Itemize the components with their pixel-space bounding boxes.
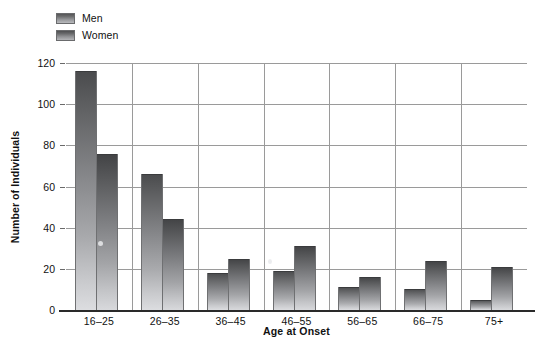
scan-speck xyxy=(98,241,103,246)
bar-women-16-25 xyxy=(96,154,118,310)
y-axis-tick-label: 80 xyxy=(43,139,55,151)
y-axis-tick-label: 20 xyxy=(43,263,55,275)
category-separator xyxy=(395,63,396,310)
bar-cap xyxy=(208,273,228,274)
x-axis-title: Age at Onset xyxy=(66,325,527,337)
y-axis-tick xyxy=(60,187,65,188)
scan-speck xyxy=(268,259,272,264)
y-axis-tick xyxy=(60,228,65,229)
y-axis-tick-label: 100 xyxy=(37,98,55,110)
legend-item-women: Women xyxy=(56,28,119,42)
bar-group xyxy=(470,63,522,310)
chart-legend: Men Women xyxy=(56,11,119,42)
legend-label-men: Men xyxy=(82,13,103,24)
bar-women-26-35 xyxy=(162,219,184,310)
legend-swatch-men-icon xyxy=(56,13,75,24)
bar-women-46-55 xyxy=(294,246,316,310)
bar-women-56-65 xyxy=(359,277,381,310)
bar-cap xyxy=(97,154,117,155)
x-axis-line xyxy=(59,310,535,312)
y-axis-tick-label: 40 xyxy=(43,222,55,234)
bar-men-46-55 xyxy=(273,271,295,310)
bar-group xyxy=(338,63,390,310)
bar-cap xyxy=(163,219,183,220)
bar-cap xyxy=(76,71,96,72)
bar-group xyxy=(75,63,127,310)
legend-label-women: Women xyxy=(82,30,119,41)
y-axis-tick xyxy=(60,63,65,64)
bar-cap xyxy=(274,271,294,272)
category-separator xyxy=(461,63,462,310)
y-axis-tick xyxy=(60,269,65,270)
bar-cap xyxy=(492,267,512,268)
bar-cap xyxy=(360,277,380,278)
bar-cap xyxy=(426,261,446,262)
bar-men-56-65 xyxy=(338,287,360,310)
y-axis-tick-label: 0 xyxy=(49,304,55,316)
bar-cap xyxy=(142,174,162,175)
y-axis-title: Number of Individuals xyxy=(8,63,22,310)
bar-men-16-25 xyxy=(75,71,97,310)
y-axis-tick-label: 60 xyxy=(43,181,55,193)
bar-cap xyxy=(339,287,359,288)
bar-cap xyxy=(471,300,491,301)
bar-men-66-75 xyxy=(404,289,426,310)
category-separator xyxy=(329,63,330,310)
y-axis-tick xyxy=(60,145,65,146)
legend-item-men: Men xyxy=(56,11,119,25)
y-axis-tick xyxy=(60,104,65,105)
category-separator xyxy=(132,63,133,310)
bar-group xyxy=(207,63,259,310)
plot-area: 120100806040200 16–2526–3536–4546–5556–6… xyxy=(66,63,527,310)
bar-cap xyxy=(229,259,249,260)
bar-women-66-75 xyxy=(425,261,447,310)
y-axis-tick-label: 120 xyxy=(37,57,55,69)
bar-group xyxy=(404,63,456,310)
category-separator xyxy=(264,63,265,310)
bar-women-75+ xyxy=(491,267,513,310)
bar-women-36-45 xyxy=(228,259,250,310)
bar-group xyxy=(141,63,193,310)
bar-men-75+ xyxy=(470,300,492,310)
legend-swatch-women-icon xyxy=(56,30,75,41)
y-axis-title-text: Number of Individuals xyxy=(9,130,21,242)
bar-chart-figure: Men Women Number of Individuals 12010080… xyxy=(0,0,549,340)
bar-men-26-35 xyxy=(141,174,163,310)
category-separator xyxy=(198,63,199,310)
bar-group xyxy=(273,63,325,310)
bar-men-36-45 xyxy=(207,273,229,310)
bar-cap xyxy=(295,246,315,247)
bar-cap xyxy=(405,289,425,290)
